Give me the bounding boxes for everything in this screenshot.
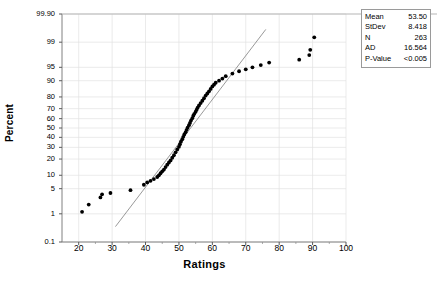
x-tick-label: 50 [164,243,194,253]
tick-marks [59,14,346,245]
y-tick-label: 20 [15,154,55,163]
y-tick-label: 30 [15,142,55,151]
y-tick-label: 5 [15,184,55,193]
y-tick-label: 80 [15,92,55,101]
stats-value: 8.418 [408,22,427,32]
stats-key: Mean [365,12,384,22]
stats-value: 16.564 [404,43,427,53]
y-tick-label: 60 [15,114,55,123]
y-tick-label: 99.90 [15,9,55,18]
probability-plot: Percent Ratings 0.1151020304050607080909… [0,0,437,282]
x-tick-label: 70 [231,243,261,253]
stats-key: P-Value [365,54,391,64]
x-tick-label: 100 [331,243,361,253]
x-tick-label: 80 [264,243,294,253]
y-tick-label: 50 [15,123,55,132]
stats-row: P-Value<0.005 [365,54,427,64]
stats-value: <0.005 [404,54,427,64]
y-tick-label: 1 [15,209,55,218]
stats-row: StDev8.418 [365,22,427,32]
statistics-box: Mean53.50StDev8.418N263AD16.564P-Value<0… [361,9,431,68]
x-tick-label: 60 [197,243,227,253]
x-axis-label: Ratings [62,258,347,270]
stats-value: 53.50 [408,12,427,22]
y-tick-label: 70 [15,104,55,113]
stats-key: AD [365,43,375,53]
gridlines [62,14,346,242]
stats-key: StDev [365,22,385,32]
x-tick-label: 30 [97,243,127,253]
y-tick-label: 95 [15,62,55,71]
y-tick-label: 10 [15,170,55,179]
x-tick-label: 90 [298,243,328,253]
stats-row: Mean53.50 [365,12,427,22]
y-tick-label: 99 [15,37,55,46]
stats-row: AD16.564 [365,43,427,53]
y-tick-label: 90 [15,76,55,85]
y-tick-label: 40 [15,132,55,141]
x-tick-label: 40 [131,243,161,253]
stats-value: 263 [414,33,427,43]
stats-row: N263 [365,33,427,43]
y-tick-label: 0.1 [15,237,55,246]
stats-key: N [365,33,370,43]
x-tick-label: 20 [64,243,94,253]
data-points [80,35,316,213]
